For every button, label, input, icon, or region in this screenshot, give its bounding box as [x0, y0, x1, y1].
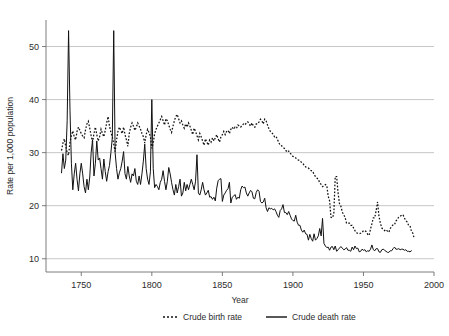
y-tick-label-20: 20	[29, 201, 39, 211]
x-tick-label-1800: 1800	[142, 280, 162, 290]
y-axis-title: Rate per 1,000 population	[5, 97, 15, 195]
x-tick-label-2000: 2000	[424, 280, 444, 290]
y-tick-label-50: 50	[29, 42, 39, 52]
x-axis-title: Year	[231, 295, 248, 305]
legend-label-birth: Crude birth rate	[183, 312, 242, 322]
y-tick-label-10: 10	[29, 254, 39, 264]
birth-death-rate-line-chart: 1020304050 175018001850190019502000 Rate…	[0, 0, 449, 336]
legend-label-death: Crude death rate	[292, 312, 356, 322]
y-tick-label-40: 40	[29, 95, 39, 105]
x-tick-label-1900: 1900	[283, 280, 303, 290]
x-tick-label-1950: 1950	[353, 280, 373, 290]
x-tick-label-1750: 1750	[71, 280, 91, 290]
x-tick-label-1850: 1850	[212, 280, 232, 290]
y-tick-label-30: 30	[29, 148, 39, 158]
chart-figure: 1020304050 175018001850190019502000 Rate…	[0, 0, 449, 336]
